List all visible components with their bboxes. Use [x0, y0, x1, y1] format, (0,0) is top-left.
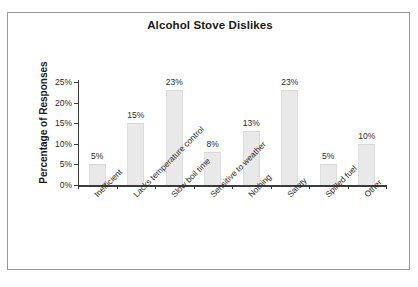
y-axis-tick-mark: [74, 164, 78, 165]
bar-value-label: 23%: [281, 77, 298, 87]
bar-value-label: 5%: [322, 151, 334, 161]
chart-title: Alcohol Stove Dislikes: [40, 19, 380, 31]
bar: [358, 144, 375, 185]
x-axis-tick-mark: [194, 185, 195, 189]
x-axis-tick-mark: [386, 185, 387, 189]
y-axis-tick-mark: [74, 144, 78, 145]
y-axis-tick-label: 25%: [55, 77, 72, 87]
y-axis-title: Percentage of Responses: [38, 53, 49, 193]
y-axis-tick-label: 0%: [60, 180, 72, 190]
y-axis-tick-mark: [74, 103, 78, 104]
x-axis-tick-mark: [232, 185, 233, 189]
bar-value-label: 10%: [358, 131, 375, 141]
bar-value-label: 23%: [166, 77, 183, 87]
y-axis-tick-label: 20%: [55, 98, 72, 108]
x-axis-tick-mark: [78, 185, 79, 189]
x-axis-tick-mark: [155, 185, 156, 189]
bar: [166, 90, 183, 185]
bar-value-label: 8%: [207, 139, 219, 149]
y-axis-tick-label: 5%: [60, 159, 72, 169]
x-axis-tick-mark: [309, 185, 310, 189]
x-axis-tick-mark: [348, 185, 349, 189]
bar-value-label: 13%: [243, 118, 260, 128]
bar-value-label: 15%: [127, 110, 144, 120]
bar-value-label: 5%: [91, 151, 103, 161]
chart-figure: Alcohol Stove Dislikes Percentage of Res…: [0, 0, 418, 287]
x-axis-tick-mark: [271, 185, 272, 189]
y-axis-tick-mark: [74, 82, 78, 83]
y-axis-tick-label: 10%: [55, 139, 72, 149]
bar: [127, 123, 144, 185]
y-axis-tick-mark: [74, 123, 78, 124]
x-axis-tick-mark: [117, 185, 118, 189]
y-axis-tick-label: 15%: [55, 118, 72, 128]
bar: [281, 90, 298, 185]
